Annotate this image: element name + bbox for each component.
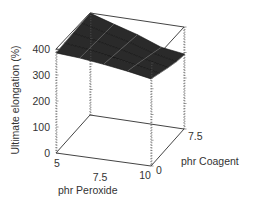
x-tick-label: 7.5 [93, 171, 108, 183]
z-tick-label: 0 [44, 147, 50, 159]
surface-plot: 400 300 200 100 0 5 7.5 10 0 7.5 phr Per… [0, 0, 253, 202]
response-surface [56, 13, 185, 79]
z-tick-label: 300 [32, 69, 50, 81]
x-tick-label: 10 [139, 169, 151, 181]
z-tick-label: 100 [32, 121, 50, 133]
box-bottom-back-edges [56, 115, 184, 153]
x-tick-label: 5 [54, 157, 60, 169]
z-axis-title: Ultimate elongation (%) [9, 45, 21, 154]
y-axis-title: phr Coagent [181, 155, 239, 167]
z-tick-label: 200 [32, 95, 50, 107]
y-tick-label: 7.5 [188, 130, 203, 142]
x-axis-title: phr Peroxide [58, 184, 118, 196]
y-tick-label: 0 [156, 164, 162, 176]
z-tick-label: 400 [32, 43, 50, 55]
box-bottom-front-edges [56, 129, 184, 166]
